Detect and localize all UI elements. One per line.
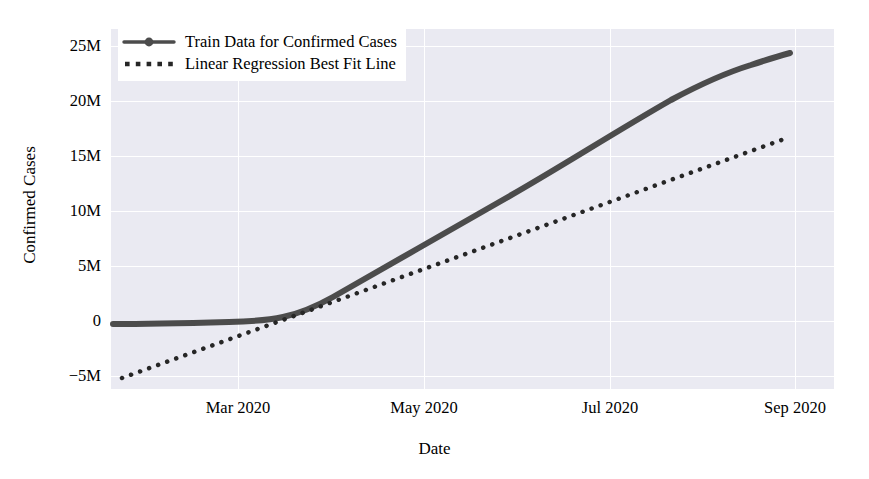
legend-entry-train-data: Train Data for Confirmed Cases [122,31,397,53]
ytick-text-10M: 10M [70,201,101,220]
series-train-data-line [113,53,790,324]
xtick-text-may2020: May 2020 [390,398,457,417]
xtick-label-may2020: May 2020 [354,400,494,416]
plot-area: Train Data for Confirmed Cases Linear Re… [111,29,834,389]
ytick-text-5M: 5M [78,256,101,275]
ytick-text-neg5M: −5M [69,366,101,385]
y-axis-title-wrap: Confirmed Cases [0,0,32,420]
xtick-label-mar2020: Mar 2020 [168,400,308,416]
legend-label-regression: Linear Regression Best Fit Line [185,55,396,73]
xtick-label-jul2020: Jul 2020 [540,400,680,416]
chart-legend: Train Data for Confirmed Cases Linear Re… [118,26,406,81]
xtick-label-sep2020: Sep 2020 [725,400,865,416]
ytick-text-15M: 15M [70,146,101,165]
legend-entry-regression: Linear Regression Best Fit Line [122,53,397,75]
legend-key-line-marker-icon [122,33,176,51]
chart-data-layer [111,29,834,389]
legend-key-dotted-line-icon [122,55,176,73]
xtick-text-mar2020: Mar 2020 [206,398,271,417]
ytick-text-25M: 25M [70,36,101,55]
series-regression-line [122,138,787,378]
ytick-text-20M: 20M [70,91,101,110]
xtick-text-sep2020: Sep 2020 [764,398,826,417]
x-axis-title: Date [0,439,869,459]
ytick-text-0: 0 [93,311,101,330]
chart-figure: Train Data for Confirmed Cases Linear Re… [0,0,869,479]
y-axis-title: Confirmed Cases [20,55,40,355]
legend-label-train-data: Train Data for Confirmed Cases [185,33,397,51]
xtick-text-jul2020: Jul 2020 [582,398,638,417]
